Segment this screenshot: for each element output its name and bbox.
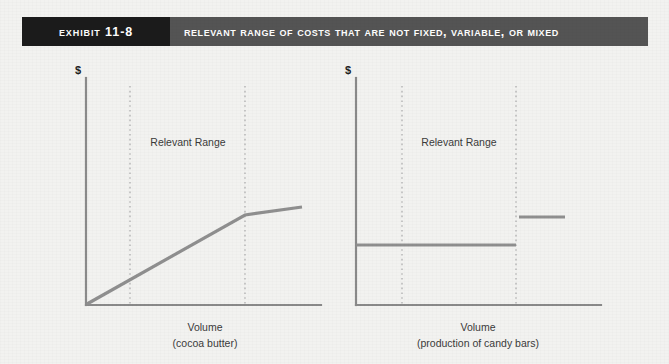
x-axis-title: Volume [460,321,495,333]
exhibit-title-text: Relevant Range of Costs That Are Not Fix… [184,25,559,39]
exhibit-number-chip: Exhibit 11-8 [22,17,170,46]
exhibit-title-band: Relevant Range of Costs That Are Not Fix… [170,17,648,46]
exhibit-page: Exhibit 11-8 Relevant Range of Costs Tha… [0,0,669,364]
exhibit-title-bar: Exhibit 11-8 Relevant Range of Costs Tha… [22,17,648,46]
chart-cocoa-butter-canvas: $ Relevant Range Volume (cocoa butter) [40,58,340,358]
x-axis-subtitle: (cocoa butter) [173,337,238,349]
relevant-range-annotation: Relevant Range [421,136,496,148]
relevant-range-annotation: Relevant Range [150,136,225,148]
x-axis-title: Volume [187,321,222,333]
x-axis-subtitle: (production of candy bars) [417,337,539,349]
cost-line-curvilinear [87,207,302,304]
y-axis-dollar-label: $ [75,64,81,76]
y-axis-dollar-label: $ [345,64,351,76]
chart-candy-bars-canvas: $ Relevant Range Volume (production of c… [320,58,630,358]
exhibit-number-label: Exhibit 11-8 [59,25,133,39]
chart-cocoa-butter: $ Relevant Range Volume (cocoa butter) [40,58,340,358]
chart-candy-bars: $ Relevant Range Volume (production of c… [320,58,630,358]
